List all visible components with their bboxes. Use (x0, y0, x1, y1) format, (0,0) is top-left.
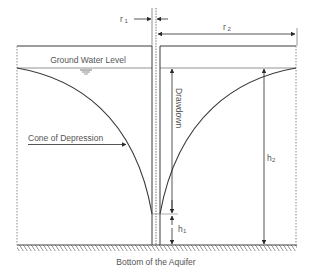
well (152, 8, 160, 245)
svg-text:Drawdown: Drawdown (174, 88, 184, 128)
h2-dimension: h 2 (264, 69, 276, 244)
right-aquifer-section (160, 46, 296, 245)
drawdown-dimension: Drawdown (172, 69, 184, 213)
left-aquifer-section (17, 46, 152, 245)
svg-text:1: 1 (183, 228, 187, 234)
h1-dimension: h 1 (172, 216, 187, 244)
aquifer-bottom (17, 245, 297, 251)
svg-text:2: 2 (228, 26, 232, 32)
ground-water-level-label: Ground Water Level (50, 55, 126, 65)
r1-dimension: r 1 (120, 14, 168, 24)
water-table-symbol-icon (80, 70, 92, 74)
aquifer-drawdown-diagram: Ground Water Level r 1 r 2 Drawdown h 1 … (0, 0, 312, 274)
svg-text:2: 2 (272, 157, 276, 163)
svg-text:1: 1 (125, 18, 129, 24)
svg-text:r: r (120, 14, 123, 24)
svg-text:Cone of Depression: Cone of Depression (28, 133, 103, 143)
svg-text:r: r (223, 22, 226, 32)
cone-of-depression-callout: Cone of Depression (28, 133, 126, 145)
bottom-of-aquifer-label: Bottom of the Aquifer (116, 257, 196, 267)
r2-dimension: r 2 (158, 22, 297, 46)
